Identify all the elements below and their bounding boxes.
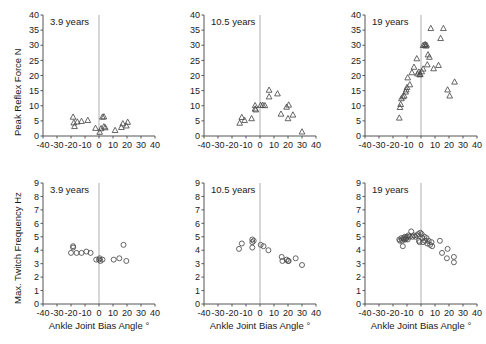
y-tick-label: 7 xyxy=(195,205,200,215)
x-tick-label: -10 xyxy=(239,140,252,150)
data-point-circle xyxy=(451,254,456,259)
y-tick-label: 8 xyxy=(356,192,361,202)
y-tick-label: 20 xyxy=(190,71,200,81)
x-tick-label: -30 xyxy=(372,308,385,318)
x-tick-label: -20 xyxy=(64,140,77,150)
data-point-triangle xyxy=(249,115,255,120)
data-point-triangle xyxy=(79,118,85,123)
data-point-triangle xyxy=(411,64,417,69)
x-tick-label: -30 xyxy=(372,140,385,150)
y-tick-label: 8 xyxy=(195,192,200,202)
y-tick-label: 8 xyxy=(34,192,39,202)
y-tick-label: 3 xyxy=(356,259,361,269)
data-point-triangle xyxy=(438,35,444,40)
data-point-triangle xyxy=(278,111,284,116)
y-tick-label: 7 xyxy=(356,205,361,215)
y-tick-label: 20 xyxy=(351,71,361,81)
x-tick-label: 40 xyxy=(472,308,482,318)
data-point-circle xyxy=(300,263,305,268)
y-tick-label: 9 xyxy=(356,178,361,188)
y-tick-label: 2 xyxy=(34,272,39,282)
data-point-circle xyxy=(74,250,79,255)
x-tick-label: 40 xyxy=(311,140,321,150)
x-tick-label: -20 xyxy=(386,308,399,318)
x-tick-label: -30 xyxy=(211,308,224,318)
y-tick-label: 5 xyxy=(356,232,361,242)
data-point-triangle xyxy=(262,102,268,107)
data-point-triangle xyxy=(70,114,76,119)
x-tick-label: -40 xyxy=(197,140,210,150)
y-axis-label: Max. Twitch Frequency Hz xyxy=(12,192,23,304)
data-point-triangle xyxy=(445,87,451,92)
data-series xyxy=(396,25,457,120)
x-tick-label: 10 xyxy=(269,140,279,150)
y-tick-label: 3 xyxy=(195,259,200,269)
y-tick-label: 30 xyxy=(29,40,39,50)
data-point-triangle xyxy=(441,25,447,30)
x-tick-label: 40 xyxy=(150,308,160,318)
x-tick-label: 30 xyxy=(136,308,146,318)
x-axis-label: Ankle Joint Bias Angle ° xyxy=(365,320,477,331)
data-series xyxy=(70,114,130,135)
panel-title: 3.9 years xyxy=(50,184,89,195)
y-tick-label: 30 xyxy=(190,40,200,50)
panel-max-twitch-frequency-3-9-years: 0123456789-40-30-20-100102030403.9 years… xyxy=(0,168,162,340)
panel-title: 10.5 years xyxy=(211,16,255,27)
y-tick-label: 35 xyxy=(190,25,200,35)
data-point-triangle xyxy=(407,82,413,87)
panel-peak-reflex-force-10-5-years: 0510152025303540-40-30-20-1001020304010.… xyxy=(161,0,323,172)
y-tick-label: 10 xyxy=(29,101,39,111)
data-point-circle xyxy=(400,244,405,249)
panel-max-twitch-frequency-10-5-years: 0123456789-40-30-20-1001020304010.5 year… xyxy=(161,168,323,340)
data-point-triangle xyxy=(299,129,305,134)
y-tick-label: 25 xyxy=(351,56,361,66)
y-tick-label: 35 xyxy=(29,25,39,35)
data-point-triangle xyxy=(452,79,458,84)
x-tick-label: -40 xyxy=(36,308,49,318)
data-point-circle xyxy=(121,242,126,247)
data-point-triangle xyxy=(436,62,442,67)
data-point-triangle xyxy=(428,25,434,30)
data-point-circle xyxy=(444,256,449,261)
data-point-circle xyxy=(440,250,445,255)
x-tick-label: 10 xyxy=(430,308,440,318)
x-tick-label: -20 xyxy=(225,140,238,150)
y-tick-label: 4 xyxy=(34,245,39,255)
y-tick-label: 6 xyxy=(356,219,361,229)
y-tick-label: 4 xyxy=(356,245,361,255)
x-tick-label: -30 xyxy=(50,140,63,150)
x-tick-label: 20 xyxy=(444,308,454,318)
y-tick-label: 40 xyxy=(190,10,200,20)
x-tick-label: 0 xyxy=(418,308,423,318)
y-tick-label: 9 xyxy=(195,178,200,188)
data-point-triangle xyxy=(431,66,437,71)
data-point-triangle xyxy=(405,75,411,80)
data-point-triangle xyxy=(85,117,91,122)
data-point-triangle xyxy=(119,124,125,129)
x-tick-label: 10 xyxy=(108,140,118,150)
x-tick-label: 20 xyxy=(122,140,132,150)
y-tick-label: 30 xyxy=(351,40,361,50)
data-point-circle xyxy=(237,246,242,251)
data-point-circle xyxy=(293,256,298,261)
y-tick-label: 20 xyxy=(29,71,39,81)
data-point-triangle xyxy=(424,62,430,67)
x-tick-label: 30 xyxy=(136,140,146,150)
x-tick-label: 30 xyxy=(297,140,307,150)
y-tick-label: 5 xyxy=(195,116,200,126)
y-tick-label: 6 xyxy=(195,219,200,229)
data-point-circle xyxy=(111,257,116,262)
data-point-triangle xyxy=(266,94,272,99)
data-point-circle xyxy=(451,260,456,265)
data-point-circle xyxy=(79,250,84,255)
data-point-circle xyxy=(239,241,244,246)
x-tick-label: 0 xyxy=(96,308,101,318)
data-point-triangle xyxy=(275,91,281,96)
y-tick-label: 1 xyxy=(34,286,39,296)
y-tick-label: 5 xyxy=(195,232,200,242)
x-tick-label: -10 xyxy=(78,140,91,150)
y-tick-label: 1 xyxy=(195,286,200,296)
x-tick-label: 0 xyxy=(257,140,262,150)
x-tick-label: 30 xyxy=(297,308,307,318)
x-tick-label: 20 xyxy=(122,308,132,318)
